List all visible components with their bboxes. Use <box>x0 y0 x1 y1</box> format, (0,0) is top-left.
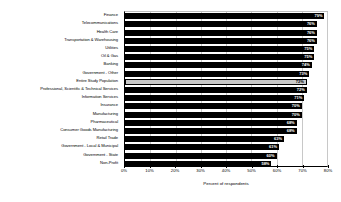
category-label: Health Care <box>97 29 118 34</box>
bar: 60% <box>125 153 277 159</box>
category-label: Banking <box>104 62 118 67</box>
bar: 70% <box>125 103 302 109</box>
bar-row: 75% <box>125 53 327 61</box>
bar: 75% <box>125 46 314 52</box>
bar: 61% <box>125 144 279 150</box>
x-tick-label: 30% <box>196 168 204 173</box>
category-label: Government - State <box>83 152 118 157</box>
category-label-row: Information Services <box>0 93 121 101</box>
category-label: Manufacturing <box>93 111 118 116</box>
category-label-row: Retail Trade <box>0 134 121 142</box>
x-tick-label: 50% <box>247 168 255 173</box>
category-label-row: Consumer Goods Manufacturing <box>0 126 121 134</box>
category-label: Telecommunications <box>82 21 118 26</box>
bar-row: 71% <box>125 94 327 102</box>
bar: 79% <box>125 13 324 19</box>
category-label: Entire Study Population <box>76 78 118 83</box>
plot-area: 79%76%76%76%75%75%74%73%72%72%71%70%70%6… <box>124 11 328 167</box>
bar: 58% <box>125 161 271 167</box>
bar-row: 76% <box>125 37 327 45</box>
category-axis-labels: FinanceTelecommunicationsHealth CareTran… <box>0 11 121 167</box>
bar-value-label: 71% <box>294 96 302 100</box>
bar-row: 75% <box>125 45 327 53</box>
x-tick-mark <box>201 165 202 168</box>
bar-row: 68% <box>125 127 327 135</box>
bar-value-label: 63% <box>274 137 282 141</box>
bar: 68% <box>125 120 297 126</box>
x-tick-mark <box>303 165 304 168</box>
bar-value-label: 73% <box>299 71 307 75</box>
category-label: Government - Local & Municipal <box>61 144 118 149</box>
x-tick-label: 0% <box>121 168 127 173</box>
bar-value-label: 58% <box>261 162 269 166</box>
bar-row: 79% <box>125 12 327 20</box>
bar-row: 60% <box>125 151 327 159</box>
category-label-row: Government - State <box>0 150 121 158</box>
category-label: Government - Other <box>82 70 118 75</box>
bar: 74% <box>125 62 312 68</box>
x-axis: 0%10%20%30%40%50%60%70%80% <box>124 168 328 178</box>
bar: 72% <box>125 79 307 85</box>
bar-row: 72% <box>125 78 327 86</box>
bar-value-label: 76% <box>307 39 315 43</box>
x-axis-title: Percent of respondents <box>124 181 328 186</box>
bar-row: 70% <box>125 110 327 118</box>
category-label: Pharmaceutical <box>90 119 118 124</box>
category-label: Professional, Scientific & Technical Ser… <box>40 87 118 92</box>
gridline <box>327 12 328 166</box>
bar-row: 68% <box>125 119 327 127</box>
bar-value-label: 75% <box>304 47 312 51</box>
bar-value-label: 72% <box>296 80 304 84</box>
category-label: Information Services <box>82 95 118 100</box>
category-label: Transportation & Warehousing <box>64 37 118 42</box>
bar-value-label: 68% <box>287 121 295 125</box>
x-tick-mark <box>252 165 253 168</box>
category-label: Finance <box>104 13 118 18</box>
category-label-row: Oil & Gas <box>0 52 121 60</box>
category-label-row: Telecommunications <box>0 19 121 27</box>
x-tick-mark <box>150 165 151 168</box>
bar-row: 74% <box>125 61 327 69</box>
bar: 76% <box>125 21 317 27</box>
category-label-row: Professional, Scientific & Technical Ser… <box>0 85 121 93</box>
x-tick-label: 40% <box>222 168 230 173</box>
bar: 63% <box>125 136 284 142</box>
bar-chart: FinanceTelecommunicationsHealth CareTran… <box>0 0 341 202</box>
bar-value-label: 68% <box>287 129 295 133</box>
x-tick-mark <box>175 165 176 168</box>
bar-value-label: 72% <box>297 88 305 92</box>
x-tick-label: 80% <box>324 168 332 173</box>
category-label-row: Manufacturing <box>0 109 121 117</box>
category-label-row: Insurance <box>0 101 121 109</box>
bar-row: 70% <box>125 102 327 110</box>
bar-row: 76% <box>125 20 327 28</box>
category-label-row: Entire Study Population <box>0 77 121 85</box>
x-tick-mark <box>328 165 329 168</box>
bar-value-label: 79% <box>314 14 322 18</box>
bar-value-label: 60% <box>266 153 274 157</box>
category-label: Consumer Goods Manufacturing <box>60 128 118 133</box>
category-label-row: Utilities <box>0 44 121 52</box>
bar-row: 76% <box>125 28 327 36</box>
bar-row: 63% <box>125 135 327 143</box>
category-label: Retail Trade <box>97 136 118 141</box>
bar: 76% <box>125 30 317 36</box>
bar-value-label: 74% <box>302 63 310 67</box>
bar-value-label: 70% <box>292 104 300 108</box>
category-label-row: Non-Profit <box>0 159 121 167</box>
x-tick-label: 60% <box>273 168 281 173</box>
category-label: Insurance <box>100 103 118 108</box>
x-tick-label: 10% <box>145 168 153 173</box>
bar-value-label: 76% <box>307 22 315 26</box>
bar-row: 73% <box>125 69 327 77</box>
category-label: Oil & Gas <box>101 54 118 59</box>
bar: 73% <box>125 71 309 77</box>
bar: 70% <box>125 112 302 118</box>
x-tick-label: 70% <box>298 168 306 173</box>
category-label: Utilities <box>105 46 118 51</box>
x-tick-mark <box>124 165 125 168</box>
bar: 72% <box>125 87 307 93</box>
bar: 68% <box>125 128 297 134</box>
category-label-row: Finance <box>0 11 121 19</box>
x-tick-label: 20% <box>171 168 179 173</box>
